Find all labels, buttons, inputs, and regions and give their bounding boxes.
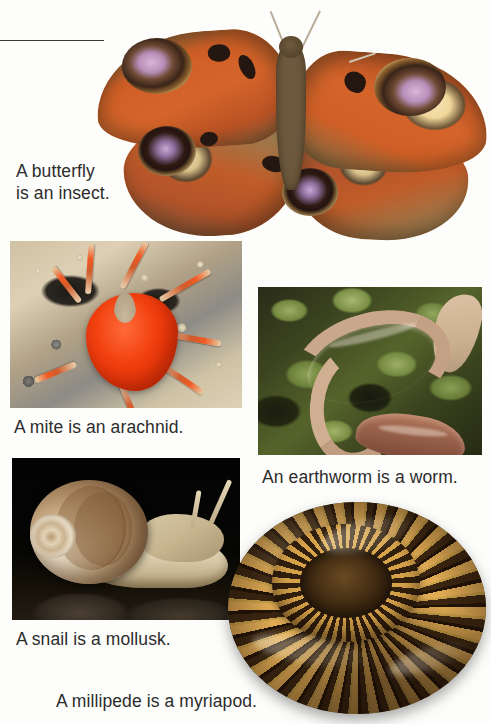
snail-shell-band — [74, 492, 132, 566]
butterfly-body — [276, 40, 306, 190]
caption-earthworm: An earthworm is a worm. — [262, 466, 458, 488]
mite-leg — [85, 244, 94, 294]
butterfly-head — [279, 36, 303, 58]
mite-leg — [51, 265, 83, 303]
caption-millipede: A millipede is a myriapod. — [56, 690, 257, 712]
butterfly-forewing-left — [92, 25, 296, 154]
caption-snail: A snail is a mollusk. — [16, 628, 171, 650]
millipede-head-end — [300, 548, 392, 618]
mite-leg — [119, 241, 149, 289]
earthworm-image — [258, 287, 482, 455]
snail-image — [12, 458, 240, 620]
mite-leg — [34, 361, 77, 383]
mite-image — [10, 241, 242, 408]
butterfly-eyespot-upper-left — [122, 38, 192, 94]
snail-shell-spiral — [30, 514, 76, 558]
mite-head-notch — [114, 293, 136, 323]
butterfly-image — [96, 14, 488, 236]
worksheet-page: A butterfly is an insect. A mite is an a… — [0, 0, 491, 724]
top-divider-rule — [0, 40, 104, 41]
millipede-image — [228, 498, 491, 722]
butterfly-eyespot-upper-right — [374, 58, 446, 116]
caption-mite: A mite is an arachnid. — [14, 416, 184, 438]
butterfly-eyespot-lower-left — [138, 126, 196, 176]
mite-leg — [159, 268, 212, 302]
